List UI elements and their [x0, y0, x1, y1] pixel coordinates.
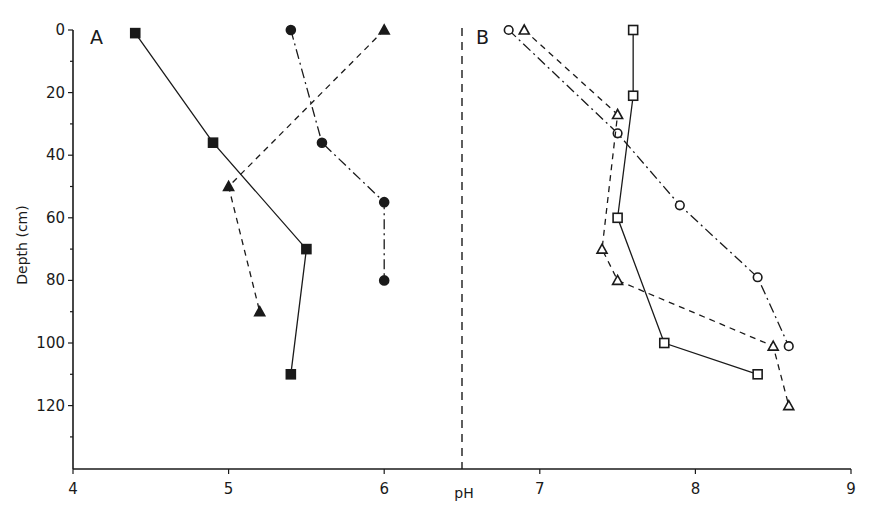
y-tick-label: 80 — [46, 271, 65, 289]
data-point — [753, 370, 762, 379]
data-point — [519, 25, 529, 34]
panel-b-label: B — [476, 26, 489, 48]
data-point — [613, 110, 623, 119]
data-point — [613, 213, 622, 222]
y-tick-label: 100 — [36, 334, 65, 352]
axes: 020406080100120456789 — [36, 21, 855, 498]
series-filled-triangle — [224, 25, 390, 316]
x-tick-label: 6 — [379, 480, 389, 498]
data-point — [209, 138, 218, 147]
y-tick-label: 20 — [46, 84, 65, 102]
data-point — [676, 201, 685, 210]
ph-depth-chart: 020406080100120456789 A B pH Depth (cm) — [0, 0, 871, 514]
data-point — [629, 26, 638, 35]
data-point — [784, 342, 793, 351]
data-point — [286, 26, 295, 35]
data-point — [784, 401, 794, 410]
x-axis-title: pH — [454, 485, 473, 501]
data-point — [768, 341, 778, 350]
x-tick-label: 4 — [68, 480, 78, 498]
y-tick-label: 40 — [46, 146, 65, 164]
x-tick-label: 8 — [691, 480, 701, 498]
data-point — [753, 273, 762, 282]
y-tick-label: 0 — [55, 21, 65, 39]
data-point — [224, 182, 234, 191]
data-point — [504, 26, 513, 35]
data-point — [317, 138, 326, 147]
data-point — [131, 29, 140, 38]
data-point — [629, 91, 638, 100]
data-point — [379, 25, 389, 34]
x-tick-label: 9 — [846, 480, 856, 498]
data-point — [255, 307, 265, 316]
data-point — [660, 339, 669, 348]
data-point — [613, 275, 623, 284]
x-tick-label: 7 — [535, 480, 545, 498]
series-filled-square — [131, 29, 311, 379]
panel-a-label: A — [90, 26, 103, 48]
y-tick-label: 120 — [36, 397, 65, 415]
y-tick-label: 60 — [46, 209, 65, 227]
data-point — [286, 370, 295, 379]
series-open-square — [613, 26, 762, 379]
y-axis-title: Depth (cm) — [14, 205, 30, 284]
data-point — [597, 244, 607, 253]
series-open-triangle — [519, 25, 794, 410]
x-tick-label: 5 — [224, 480, 234, 498]
data-point — [380, 276, 389, 285]
data-point — [302, 245, 311, 254]
data-point — [380, 198, 389, 207]
